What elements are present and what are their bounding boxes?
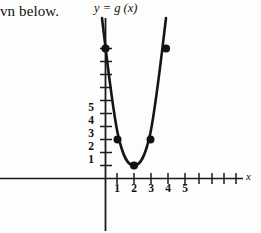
data-point-3-3 (147, 136, 155, 144)
parabola-curve (102, 18, 166, 166)
data-point-vertex-2-1 (130, 162, 138, 170)
data-point-0-9 (101, 44, 109, 52)
data-point-1-3 (114, 136, 122, 144)
coordinate-plane-svg (0, 0, 261, 233)
data-point-4-9 (162, 44, 170, 52)
graph-figure: vn below. y = g (x) x 5 4 3 2 1 1 2 3 4 … (0, 0, 261, 233)
